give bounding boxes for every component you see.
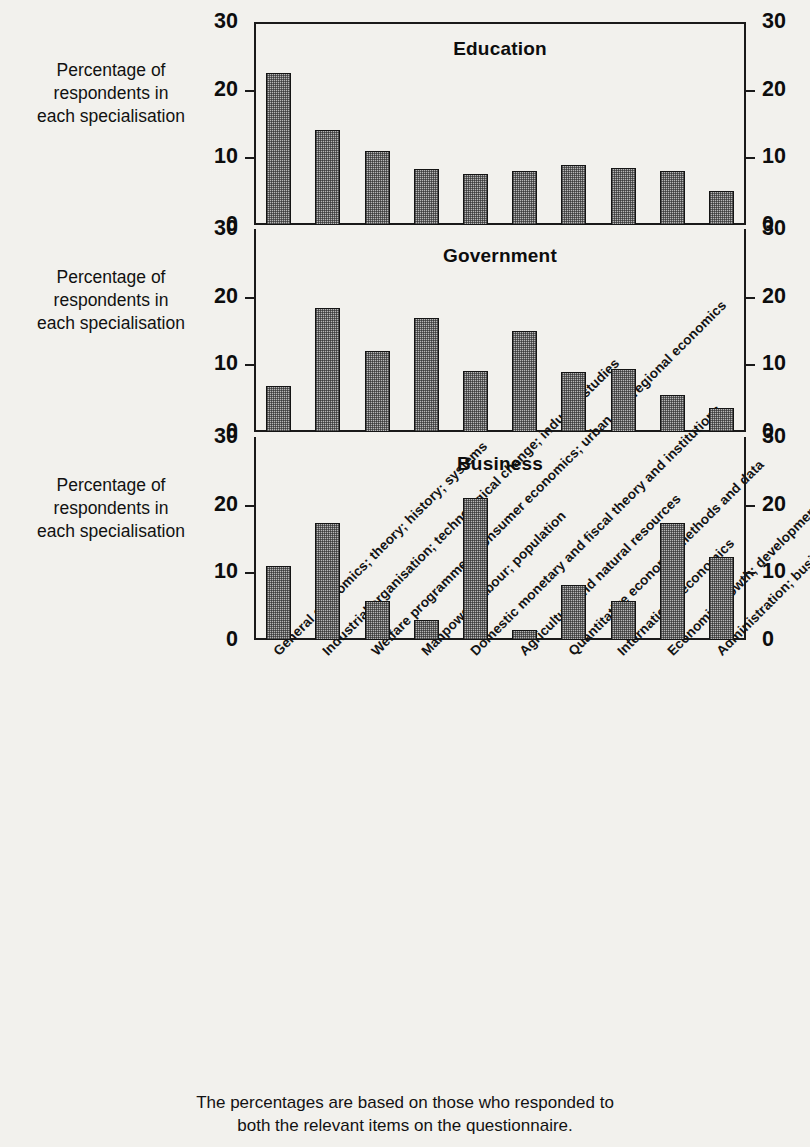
y-tick-label-left: 30 bbox=[178, 11, 238, 33]
panel-business: Business00101020203030 bbox=[254, 437, 746, 640]
panel-title: Government bbox=[254, 245, 746, 267]
y-tick-label-right: 30 bbox=[762, 11, 810, 33]
bar[interactable] bbox=[414, 318, 439, 432]
footnote-line-2: both the relevant items on the questionn… bbox=[0, 1115, 810, 1138]
bar[interactable] bbox=[709, 557, 734, 640]
y-tick-label-right: 10 bbox=[762, 561, 810, 583]
y-tick-label-left: 20 bbox=[178, 79, 238, 101]
figure-footnote: The percentages are based on those who r… bbox=[0, 1092, 810, 1138]
y-tick-label-left: 10 bbox=[178, 561, 238, 583]
y-tick-left bbox=[245, 572, 254, 574]
caption-line-1: Percentage of bbox=[18, 59, 204, 82]
y-tick-left bbox=[245, 157, 254, 159]
y-tick-right bbox=[746, 297, 755, 299]
caption-line-2: respondents in bbox=[18, 497, 204, 520]
bar[interactable] bbox=[266, 566, 291, 640]
bar[interactable] bbox=[365, 601, 390, 640]
y-axis-caption-education: Percentage of respondents in each specia… bbox=[18, 59, 204, 129]
caption-line-3: each specialisation bbox=[18, 520, 204, 543]
caption-line-1: Percentage of bbox=[18, 266, 204, 289]
bar[interactable] bbox=[315, 308, 340, 432]
y-tick-label-left: 10 bbox=[178, 146, 238, 168]
bar[interactable] bbox=[315, 130, 340, 225]
panel-government: Government00101020203030 bbox=[254, 229, 746, 432]
bar[interactable] bbox=[365, 351, 390, 432]
y-tick-label-right: 10 bbox=[762, 353, 810, 375]
y-tick-left bbox=[245, 297, 254, 299]
bar[interactable] bbox=[561, 165, 586, 225]
caption-line-2: respondents in bbox=[18, 82, 204, 105]
y-tick-label-left: 30 bbox=[178, 218, 238, 240]
y-axis-caption-business: Percentage of respondents in each specia… bbox=[18, 474, 204, 544]
y-axis-caption-government: Percentage of respondents in each specia… bbox=[18, 266, 204, 336]
caption-line-3: each specialisation bbox=[18, 105, 204, 128]
bar[interactable] bbox=[463, 174, 488, 225]
y-tick-label-right: 30 bbox=[762, 218, 810, 240]
bar[interactable] bbox=[561, 585, 586, 640]
bar[interactable] bbox=[611, 369, 636, 432]
y-tick-label-left: 0 bbox=[178, 629, 238, 651]
bar[interactable] bbox=[660, 395, 685, 432]
y-tick-label-left: 30 bbox=[178, 426, 238, 448]
panel-title: Education bbox=[254, 38, 746, 60]
bar[interactable] bbox=[463, 498, 488, 640]
bar[interactable] bbox=[660, 171, 685, 225]
y-tick-label-right: 20 bbox=[762, 286, 810, 308]
bar[interactable] bbox=[365, 151, 390, 225]
bar[interactable] bbox=[414, 169, 439, 225]
caption-line-1: Percentage of bbox=[18, 474, 204, 497]
bar[interactable] bbox=[660, 523, 685, 640]
bar[interactable] bbox=[463, 371, 488, 432]
caption-line-3: each specialisation bbox=[18, 312, 204, 335]
y-tick-right bbox=[746, 157, 755, 159]
y-tick-label-right: 10 bbox=[762, 146, 810, 168]
panel-education: Education00101020203030 bbox=[254, 22, 746, 225]
y-tick-label-right: 20 bbox=[762, 494, 810, 516]
bar[interactable] bbox=[512, 331, 537, 433]
y-tick-left bbox=[245, 90, 254, 92]
chart-figure: Percentage of respondents in each specia… bbox=[0, 0, 810, 1147]
bar[interactable] bbox=[315, 523, 340, 640]
panel-title: Business bbox=[254, 453, 746, 475]
bar[interactable] bbox=[266, 386, 291, 432]
footnote-line-1: The percentages are based on those who r… bbox=[0, 1092, 810, 1115]
y-tick-left bbox=[245, 505, 254, 507]
caption-line-2: respondents in bbox=[18, 289, 204, 312]
y-tick-label-right: 0 bbox=[762, 629, 810, 651]
y-tick-right bbox=[746, 572, 755, 574]
bar[interactable] bbox=[266, 73, 291, 225]
y-tick-right bbox=[746, 364, 755, 366]
bar[interactable] bbox=[709, 408, 734, 432]
y-tick-right bbox=[746, 90, 755, 92]
bar[interactable] bbox=[512, 630, 537, 640]
y-tick-label-right: 20 bbox=[762, 79, 810, 101]
y-tick-left bbox=[245, 364, 254, 366]
y-tick-right bbox=[746, 505, 755, 507]
bar[interactable] bbox=[611, 168, 636, 225]
y-tick-label-left: 20 bbox=[178, 286, 238, 308]
y-tick-label-right: 30 bbox=[762, 426, 810, 448]
bar[interactable] bbox=[512, 171, 537, 225]
bar[interactable] bbox=[561, 372, 586, 432]
bar[interactable] bbox=[611, 601, 636, 640]
bar[interactable] bbox=[414, 620, 439, 640]
y-tick-label-left: 10 bbox=[178, 353, 238, 375]
y-tick-label-left: 20 bbox=[178, 494, 238, 516]
bar[interactable] bbox=[709, 191, 734, 226]
